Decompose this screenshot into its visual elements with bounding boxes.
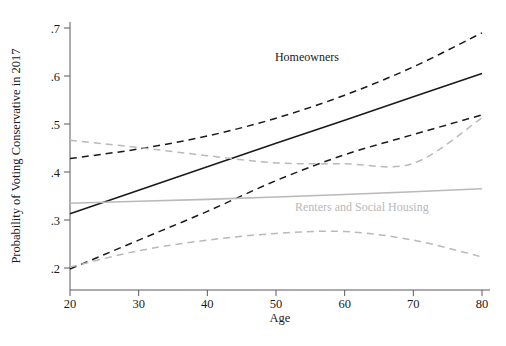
y-axis-title: Probability of Voting Conservative in 20… <box>9 48 23 263</box>
x-tick-label: 80 <box>476 297 489 311</box>
series-line <box>70 74 482 214</box>
y-tick-label: .5 <box>51 118 60 132</box>
x-tick-label: 60 <box>338 297 351 311</box>
x-axis-ticks: 20304050607080 <box>64 290 489 311</box>
y-tick-label: .3 <box>51 214 60 228</box>
series-annotation-label: Renters and Social Housing <box>295 200 429 214</box>
y-tick-label: .4 <box>51 166 61 180</box>
y-axis-ticks: .2.3.4.5.6.7 <box>51 22 70 276</box>
x-tick-label: 20 <box>64 297 77 311</box>
x-tick-label: 40 <box>201 297 214 311</box>
annotation-layer: HomeownersRenters and Social Housing <box>275 50 429 215</box>
series-annotation-label: Homeowners <box>275 50 339 64</box>
voting-conservative-line-chart: .2.3.4.5.6.7 20304050607080 HomeownersRe… <box>0 0 506 346</box>
x-tick-label: 30 <box>132 297 145 311</box>
y-tick-label: .7 <box>51 22 60 36</box>
chart-container: .2.3.4.5.6.7 20304050607080 HomeownersRe… <box>0 0 506 346</box>
series-layer <box>70 33 482 269</box>
x-axis-title: Age <box>270 311 291 325</box>
y-tick-label: .6 <box>51 70 60 84</box>
x-tick-label: 70 <box>407 297 420 311</box>
series-line <box>70 231 482 267</box>
y-tick-label: .2 <box>51 262 60 276</box>
series-line <box>70 118 482 167</box>
x-tick-label: 50 <box>270 297 283 311</box>
